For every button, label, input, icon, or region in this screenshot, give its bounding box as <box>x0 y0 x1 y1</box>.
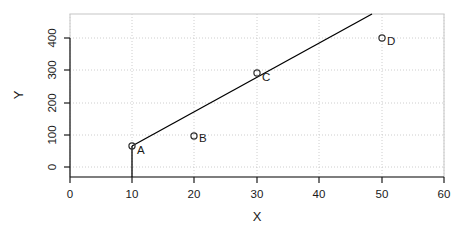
y-tick-label-400: 400 <box>46 28 58 47</box>
scatter-plot-figure: 0 10 20 30 40 50 60 0 100 200 300 400 Y … <box>0 0 465 239</box>
y-tick-label-0: 0 <box>46 164 58 170</box>
x-tick-label-10: 10 <box>126 188 139 200</box>
horizontal-gridlines <box>70 38 444 167</box>
point-label-d: D <box>387 35 395 47</box>
data-point-c <box>254 70 260 76</box>
y-tick-label-300: 300 <box>46 60 58 79</box>
y-tick-label-100: 100 <box>46 125 58 144</box>
x-tick-label-0: 0 <box>67 188 73 200</box>
y-axis <box>64 38 70 177</box>
x-tick-label-30: 30 <box>251 188 264 200</box>
point-label-c: C <box>262 71 270 83</box>
y-axis-title: Y <box>11 91 26 100</box>
point-label-b: B <box>199 132 207 144</box>
x-tick-label-40: 40 <box>313 188 326 200</box>
data-point-b <box>191 133 197 139</box>
x-axis <box>70 177 444 183</box>
x-axis-title: X <box>253 209 262 224</box>
x-tick-label-50: 50 <box>376 188 389 200</box>
x-tick-label-60: 60 <box>438 188 451 200</box>
x-tick-label-20: 20 <box>188 188 201 200</box>
y-tick-label-200: 200 <box>46 93 58 112</box>
fit-line <box>132 14 372 146</box>
point-label-a: A <box>137 144 145 156</box>
